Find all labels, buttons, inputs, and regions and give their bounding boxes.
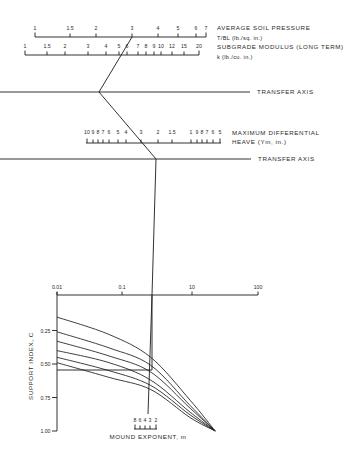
soil-pressure-units: T/BL (lb./sq. in.): [217, 35, 263, 41]
x-tick-label: 0.01: [52, 284, 62, 290]
x-tick-label: 100: [254, 284, 263, 290]
heave-tick-label: 7: [102, 129, 105, 135]
subgrade-modulus-title: SUBGRADE MODULUS (LONG TERM): [217, 43, 344, 50]
heave-tick-label: 5: [117, 129, 120, 135]
subgrade-modulus-tick-label: 3: [87, 43, 90, 49]
y-tick-label: 0.50: [40, 361, 50, 367]
heave-units: HEAVE (Ym, in.): [232, 138, 287, 145]
mound-exponent-title: MOUND EXPONENT, m: [109, 433, 186, 440]
y-tick-label: 0.75: [40, 395, 50, 401]
heave-tick-label: 7: [206, 129, 209, 135]
subgrade-modulus-tick-label: 12: [169, 43, 175, 49]
subgrade-modulus-tick-label: 9: [153, 43, 156, 49]
x-tick-label: 10: [189, 284, 195, 290]
solution-line-to-mound-exponent: [148, 295, 152, 414]
y-tick-label: 0.25: [40, 328, 50, 334]
subgrade-modulus-scale: 11.52345678910121520: [24, 43, 202, 55]
support-index-nomograph: 11.5234567 AVERAGE SOIL PRESSURE T/BL (l…: [0, 0, 351, 460]
heave-tick-label: 8: [97, 129, 100, 135]
heave-tick-label: 9: [196, 129, 199, 135]
subgrade-modulus-tick-label: 2: [64, 43, 67, 49]
subgrade-modulus-tick-label: 8: [145, 43, 148, 49]
heave-tick-label: 5: [219, 129, 222, 135]
mound-exponent-tick-label: 8: [134, 417, 137, 423]
subgrade-modulus-tick-label: 1: [24, 43, 27, 49]
heave-tick-label: 2: [157, 129, 160, 135]
subgrade-modulus-tick-label: 10: [158, 43, 164, 49]
y-axis-label: SUPPORT INDEX, C: [27, 332, 34, 400]
mound-exponent-tick-label: 2: [155, 417, 158, 423]
support-index-curves: [57, 317, 215, 431]
heave-tick-label: 8: [201, 129, 204, 135]
mound-exponent-scale: 86432: [134, 417, 158, 429]
soil-pressure-tick-label: 3: [131, 25, 134, 31]
soil-pressure-scale: 11.5234567: [34, 25, 208, 37]
soil-pressure-tick-label: 5: [177, 25, 180, 31]
heave-tick-label: 9: [92, 129, 95, 135]
subgrade-modulus-tick-label: 4: [105, 43, 108, 49]
support-index-curve: [57, 317, 215, 431]
y-tick-label: 1.00: [40, 428, 50, 434]
max-differential-heave-scale: 10987654321.5198765: [84, 129, 221, 143]
soil-pressure-tick-label: 6: [195, 25, 198, 31]
soil-pressure-tick-label: 7: [205, 25, 208, 31]
transfer-axis-2-label: TRANSFER AXIS: [258, 155, 315, 162]
mound-exponent-tick-label: 6: [139, 417, 142, 423]
solution-line-main: [57, 37, 156, 370]
heave-tick-label: 6: [212, 129, 215, 135]
soil-pressure-tick-label: 1: [34, 25, 37, 31]
heave-tick-label: 10: [84, 129, 90, 135]
heave-title: MAXIMUM DIFFERENTIAL: [232, 129, 320, 136]
subgrade-modulus-tick-label: 20: [196, 43, 202, 49]
heave-tick-label: 1.5: [168, 129, 175, 135]
heave-tick-label: 4: [125, 129, 128, 135]
subgrade-modulus-tick-label: 1.5: [43, 43, 50, 49]
subgrade-modulus-tick-label: 5: [118, 43, 121, 49]
solution-path: [57, 37, 156, 414]
x-tick-label: 0.1: [118, 284, 125, 290]
mound-exponent-tick-label: 3: [149, 417, 152, 423]
mound-exponent-tick-label: 4: [144, 417, 147, 423]
heave-tick-label: 3: [140, 129, 143, 135]
soil-pressure-tick-label: 4: [157, 25, 160, 31]
subgrade-modulus-units: k (lb./cu. in.): [217, 54, 253, 60]
soil-pressure-title: AVERAGE SOIL PRESSURE: [217, 24, 310, 31]
soil-pressure-tick-label: 1.5: [66, 25, 73, 31]
subgrade-modulus-tick-label: 15: [181, 43, 187, 49]
heave-tick-label: 6: [108, 129, 111, 135]
subgrade-modulus-tick-label: 7: [137, 43, 140, 49]
soil-pressure-tick-label: 2: [95, 25, 98, 31]
heave-tick-label: 1: [190, 129, 193, 135]
transfer-axis-1-label: TRANSFER AXIS: [257, 88, 314, 95]
